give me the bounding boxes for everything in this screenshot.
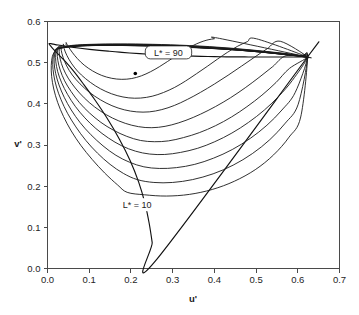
data-markers xyxy=(134,72,138,76)
y-tick-label: 0.5 xyxy=(27,57,40,68)
plot-frame xyxy=(48,22,340,269)
y-tick-label: 0.1 xyxy=(27,222,40,233)
x-tick-label: 0.1 xyxy=(83,274,96,285)
y-tick-label: 0.3 xyxy=(27,139,40,150)
white-point xyxy=(134,72,138,76)
spectrum-locus xyxy=(49,42,319,273)
x-tick-label: 0.0 xyxy=(41,274,54,285)
x-tick-label: 0.3 xyxy=(166,274,179,285)
x-tick-label: 0.2 xyxy=(124,274,137,285)
x-tick-label: 0.5 xyxy=(249,274,262,285)
axis-spines xyxy=(48,22,340,269)
y-tick-label: 0.2 xyxy=(27,181,40,192)
contour-lines xyxy=(49,37,319,273)
x-tick-label: 0.6 xyxy=(291,274,304,285)
y-axis-title: v' xyxy=(14,138,22,149)
x-axis-title: u' xyxy=(189,293,197,304)
y-tick-label: 0.4 xyxy=(27,98,40,109)
contour-lstar-30 xyxy=(54,45,308,168)
lstar-10-label: L* = 10 xyxy=(123,200,152,210)
contour-lstar-10 xyxy=(51,45,307,196)
tick-marks xyxy=(44,22,340,273)
lstar-90-label: L* = 90 xyxy=(154,48,183,58)
axes xyxy=(48,22,340,269)
y-tick-label: 0.6 xyxy=(27,16,40,27)
x-tick-label: 0.4 xyxy=(208,274,221,285)
y-tick-label: 0.0 xyxy=(27,263,40,274)
chromaticity-diagram-figure: 0.00.10.20.30.40.50.60.70.00.10.20.30.40… xyxy=(0,0,359,315)
x-tick-label: 0.7 xyxy=(333,274,346,285)
plot-canvas: 0.00.10.20.30.40.50.60.70.00.10.20.30.40… xyxy=(0,0,359,315)
